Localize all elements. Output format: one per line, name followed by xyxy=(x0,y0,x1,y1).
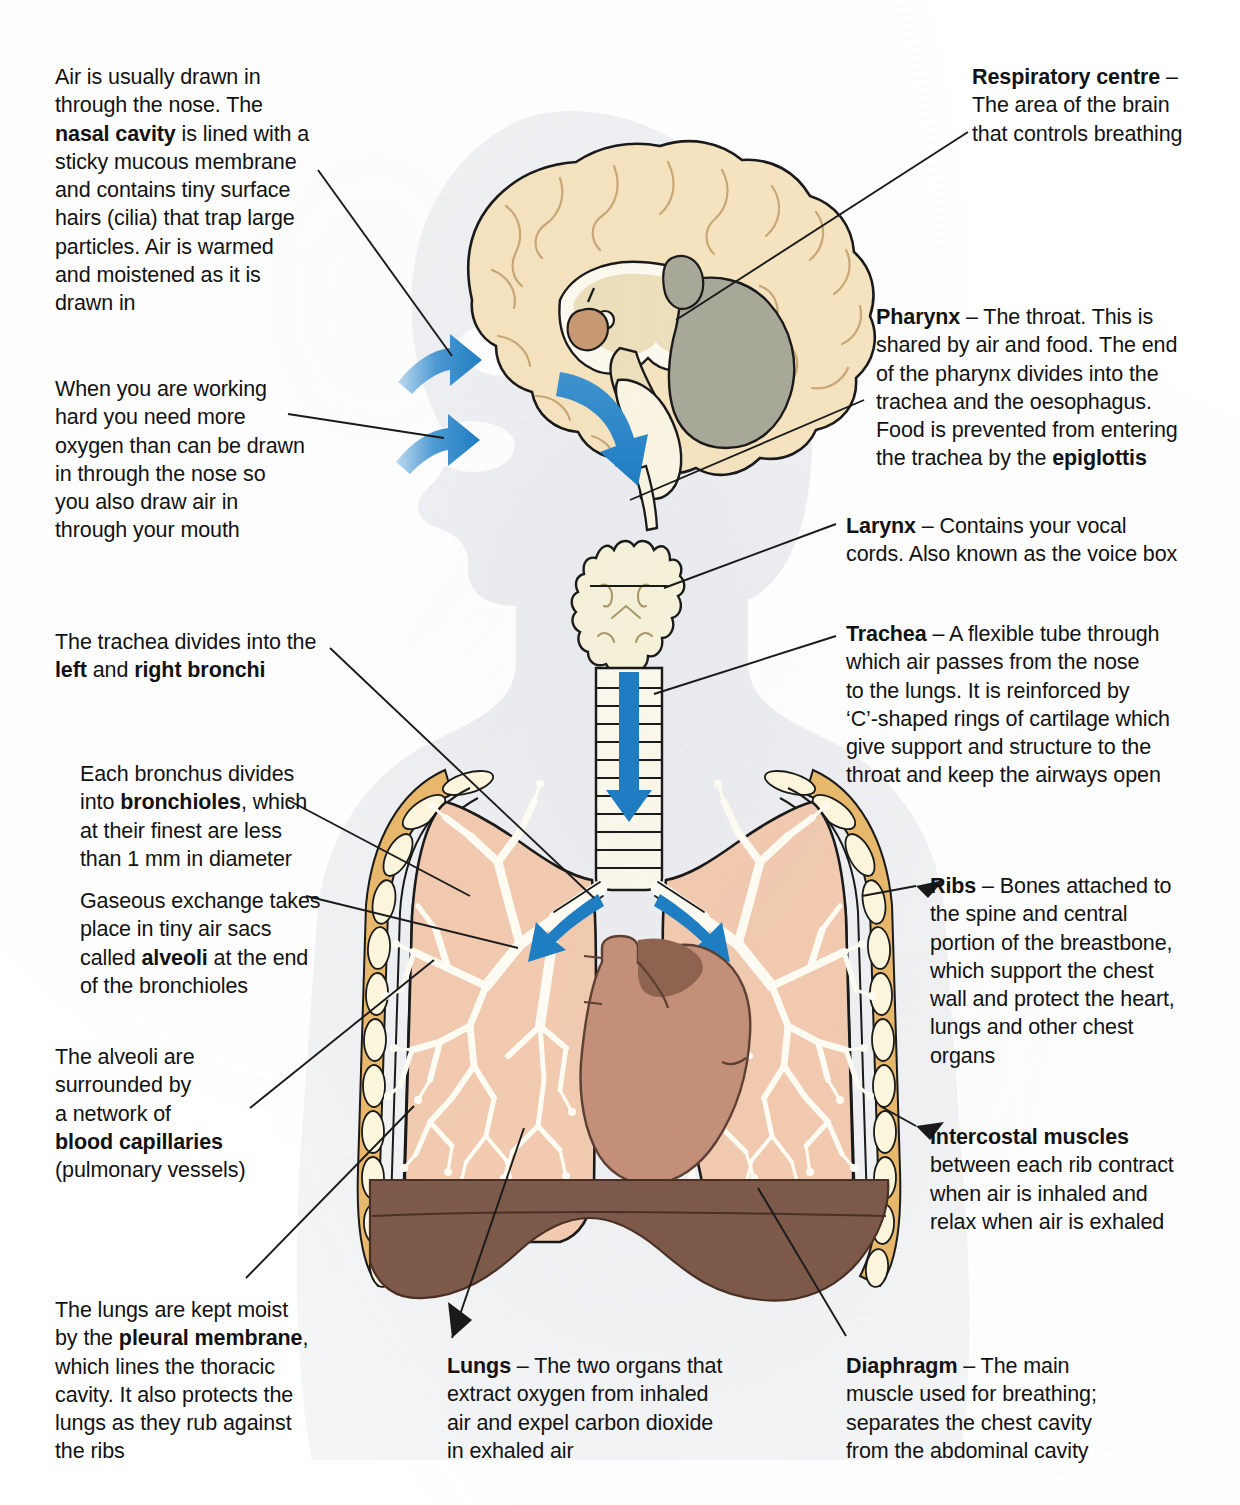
blood-capillaries-note: The alveoli are surrounded by a network … xyxy=(55,1043,315,1184)
intercostal-muscles-note: Intercostal muscles between each rib con… xyxy=(930,1123,1200,1236)
trachea xyxy=(596,668,662,890)
bronchi-note: The trachea divides into the left and ri… xyxy=(55,628,355,685)
nasal-cavity-note: Air is usually drawn in through the nose… xyxy=(55,63,345,317)
lungs-note: Lungs – The two organs that extract oxyg… xyxy=(447,1352,757,1465)
mouth-breathing-note: When you are working hard you need more … xyxy=(55,375,340,545)
respiratory-centre-note: Respiratory centre – The area of the bra… xyxy=(972,63,1222,148)
bronchioles-note: Each bronchus divides into bronchioles, … xyxy=(80,760,350,873)
pleural-membrane-note: The lungs are kept moist by the pleural … xyxy=(55,1296,345,1466)
alveoli-note: Gaseous exchange takes place in tiny air… xyxy=(80,887,355,1000)
diaphragm-note: Diaphragm – The main muscle used for bre… xyxy=(846,1352,1146,1465)
ribs-note: Ribs – Bones attached to the spine and c… xyxy=(930,872,1198,1070)
pharynx-note: Pharynx – The throat. This is shared by … xyxy=(876,303,1208,473)
diagram-canvas: Air is usually drawn in through the nose… xyxy=(0,0,1240,1505)
trachea-note: Trachea – A flexible tube through which … xyxy=(846,620,1211,790)
larynx-note: Larynx – Contains your vocal cords. Also… xyxy=(846,512,1206,569)
